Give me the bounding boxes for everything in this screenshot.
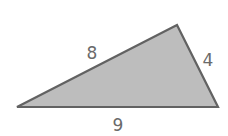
side-label-bottom: 9	[113, 115, 124, 135]
triangle-shape	[17, 25, 218, 107]
side-label-left: 8	[87, 43, 98, 63]
side-label-right: 4	[203, 50, 214, 70]
triangle-diagram: 8 4 9	[0, 0, 228, 136]
